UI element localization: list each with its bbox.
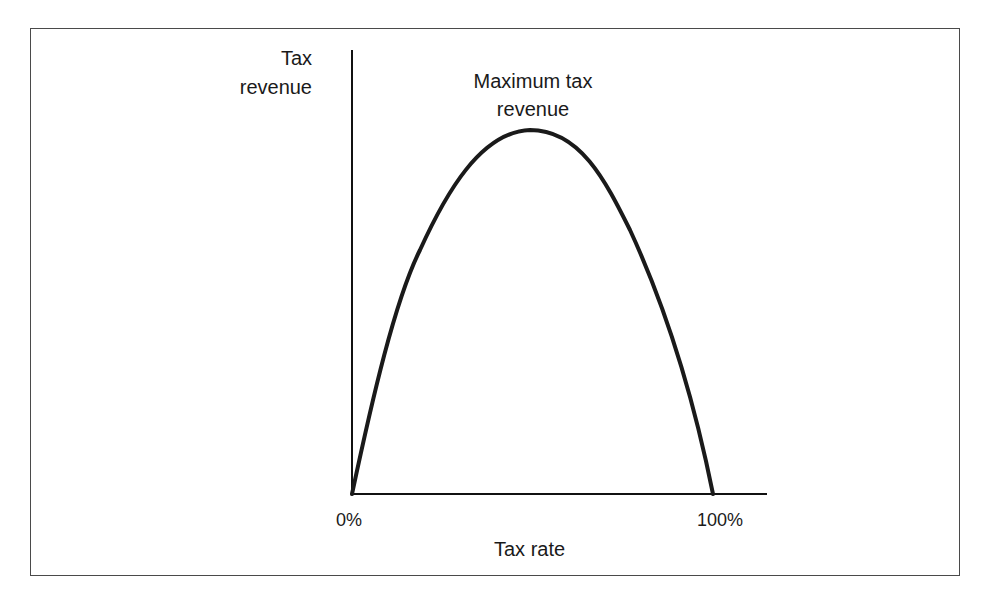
y-axis-label-line2: revenue <box>240 73 312 102</box>
x-tick-100-percent: 100% <box>697 506 743 534</box>
y-axis-label: Tax revenue <box>240 44 312 102</box>
laffer-curve <box>352 130 713 494</box>
peak-annotation-line2: revenue <box>433 95 633 123</box>
peak-annotation-line1: Maximum tax <box>433 67 633 95</box>
x-tick-0-percent: 0% <box>336 506 362 534</box>
peak-annotation: Maximum tax revenue <box>433 67 633 123</box>
x-axis-label: Tax rate <box>494 535 565 563</box>
y-axis-label-line1: Tax <box>240 44 312 73</box>
